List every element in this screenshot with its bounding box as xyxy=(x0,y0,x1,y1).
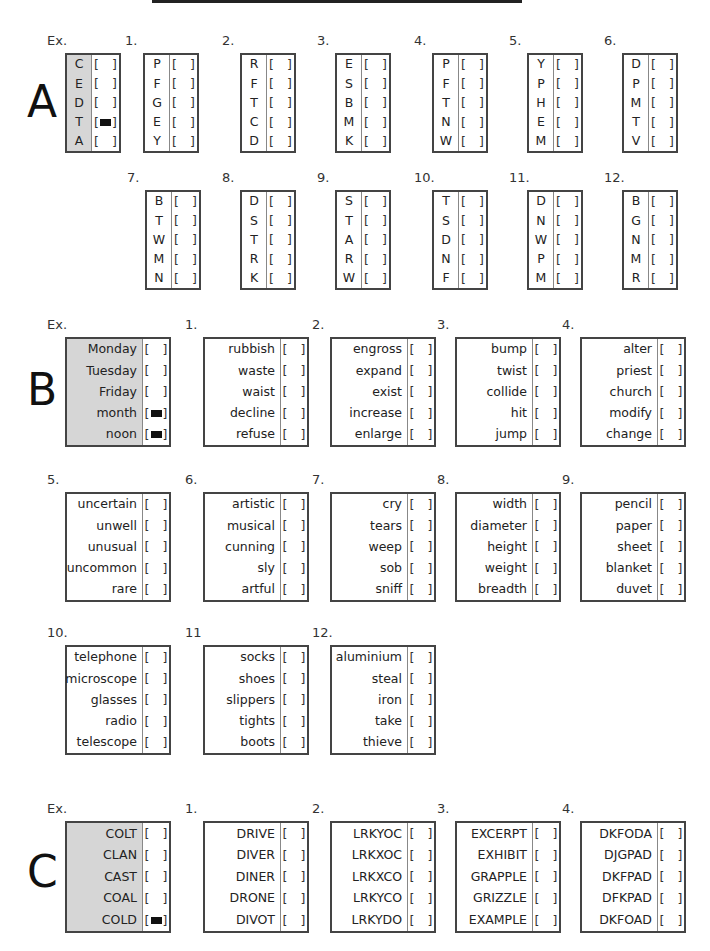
answer-checkbox[interactable]: [] xyxy=(461,76,484,91)
answer-checkbox[interactable]: [] xyxy=(269,271,292,286)
answer-checkbox[interactable]: [] xyxy=(535,342,558,357)
answer-checkbox[interactable]: [] xyxy=(461,57,484,72)
answer-checkbox[interactable]: [] xyxy=(660,363,683,378)
answer-checkbox[interactable]: [] xyxy=(535,848,558,863)
answer-checkbox[interactable]: [] xyxy=(174,271,197,286)
answer-checkbox[interactable]: [] xyxy=(145,561,168,576)
answer-checkbox[interactable]: [] xyxy=(283,539,306,554)
answer-checkbox[interactable]: [] xyxy=(651,271,674,286)
answer-checkbox[interactable]: [] xyxy=(364,271,387,286)
answer-checkbox[interactable]: [] xyxy=(172,57,195,72)
answer-checkbox[interactable]: [] xyxy=(535,913,558,928)
answer-checkbox-marked[interactable]: [] xyxy=(145,913,168,928)
answer-checkbox[interactable]: [] xyxy=(283,497,306,512)
answer-checkbox[interactable]: [] xyxy=(145,384,168,399)
answer-checkbox-marked[interactable]: [] xyxy=(145,406,168,421)
answer-checkbox[interactable]: [] xyxy=(535,826,558,841)
answer-checkbox[interactable]: [] xyxy=(174,194,197,209)
answer-checkbox[interactable]: [] xyxy=(145,735,168,750)
answer-checkbox[interactable]: [] xyxy=(651,115,674,130)
answer-checkbox[interactable]: [] xyxy=(364,115,387,130)
answer-checkbox[interactable]: [] xyxy=(410,913,433,928)
answer-checkbox[interactable]: [] xyxy=(283,363,306,378)
answer-checkbox[interactable]: [] xyxy=(145,869,168,884)
answer-checkbox[interactable]: [] xyxy=(283,869,306,884)
answer-checkbox[interactable]: [] xyxy=(283,826,306,841)
answer-checkbox[interactable]: [] xyxy=(410,406,433,421)
answer-checkbox[interactable]: [] xyxy=(535,363,558,378)
answer-checkbox[interactable]: [] xyxy=(556,271,579,286)
answer-checkbox[interactable]: [] xyxy=(172,76,195,91)
answer-checkbox[interactable]: [] xyxy=(535,869,558,884)
answer-checkbox[interactable]: [] xyxy=(283,582,306,597)
answer-checkbox[interactable]: [] xyxy=(651,95,674,110)
answer-checkbox[interactable]: [] xyxy=(535,384,558,399)
answer-checkbox[interactable]: [] xyxy=(535,561,558,576)
answer-checkbox[interactable]: [] xyxy=(283,671,306,686)
answer-checkbox[interactable]: [] xyxy=(410,561,433,576)
answer-checkbox[interactable]: [] xyxy=(556,134,579,149)
answer-checkbox[interactable]: [] xyxy=(174,232,197,247)
answer-checkbox[interactable]: [] xyxy=(410,582,433,597)
answer-checkbox[interactable]: [] xyxy=(556,57,579,72)
answer-checkbox[interactable]: [] xyxy=(410,497,433,512)
answer-checkbox[interactable]: [] xyxy=(660,913,683,928)
answer-checkbox[interactable]: [] xyxy=(145,714,168,729)
answer-checkbox[interactable]: [] xyxy=(556,194,579,209)
answer-checkbox[interactable]: [] xyxy=(283,735,306,750)
answer-checkbox[interactable]: [] xyxy=(145,826,168,841)
answer-checkbox[interactable]: [] xyxy=(556,95,579,110)
answer-checkbox[interactable]: [] xyxy=(535,582,558,597)
answer-checkbox[interactable]: [] xyxy=(364,57,387,72)
answer-checkbox[interactable]: [] xyxy=(145,692,168,707)
answer-checkbox[interactable]: [] xyxy=(283,427,306,442)
answer-checkbox[interactable]: [] xyxy=(269,252,292,267)
answer-checkbox[interactable]: [] xyxy=(651,134,674,149)
answer-checkbox[interactable]: [] xyxy=(410,869,433,884)
answer-checkbox[interactable]: [] xyxy=(283,342,306,357)
answer-checkbox[interactable]: [] xyxy=(283,913,306,928)
answer-checkbox[interactable]: [] xyxy=(535,891,558,906)
answer-checkbox[interactable]: [] xyxy=(461,213,484,228)
answer-checkbox[interactable]: [] xyxy=(535,427,558,442)
answer-checkbox[interactable]: [] xyxy=(410,735,433,750)
answer-checkbox[interactable]: [] xyxy=(410,363,433,378)
answer-checkbox[interactable]: [] xyxy=(283,714,306,729)
answer-checkbox[interactable]: [] xyxy=(410,671,433,686)
answer-checkbox[interactable]: [] xyxy=(410,891,433,906)
answer-checkbox[interactable]: [] xyxy=(410,650,433,665)
answer-checkbox[interactable]: [] xyxy=(283,518,306,533)
answer-checkbox[interactable]: [] xyxy=(660,497,683,512)
answer-checkbox[interactable]: [] xyxy=(535,518,558,533)
answer-checkbox[interactable]: [] xyxy=(660,561,683,576)
answer-checkbox[interactable]: [] xyxy=(145,497,168,512)
answer-checkbox[interactable]: [] xyxy=(174,213,197,228)
answer-checkbox[interactable]: [] xyxy=(461,271,484,286)
answer-checkbox[interactable]: [] xyxy=(94,57,117,72)
answer-checkbox[interactable]: [] xyxy=(364,95,387,110)
answer-checkbox[interactable]: [] xyxy=(364,194,387,209)
answer-checkbox[interactable]: [] xyxy=(269,95,292,110)
answer-checkbox[interactable]: [] xyxy=(269,115,292,130)
answer-checkbox[interactable]: [] xyxy=(410,384,433,399)
answer-checkbox-marked[interactable]: [] xyxy=(94,115,117,130)
answer-checkbox[interactable]: [] xyxy=(172,95,195,110)
answer-checkbox[interactable]: [] xyxy=(556,213,579,228)
answer-checkbox[interactable]: [] xyxy=(660,848,683,863)
answer-checkbox[interactable]: [] xyxy=(461,252,484,267)
answer-checkbox[interactable]: [] xyxy=(410,826,433,841)
answer-checkbox[interactable]: [] xyxy=(145,539,168,554)
answer-checkbox[interactable]: [] xyxy=(651,57,674,72)
answer-checkbox[interactable]: [] xyxy=(660,539,683,554)
answer-checkbox[interactable]: [] xyxy=(556,232,579,247)
answer-checkbox[interactable]: [] xyxy=(410,692,433,707)
answer-checkbox[interactable]: [] xyxy=(172,115,195,130)
answer-checkbox[interactable]: [] xyxy=(283,406,306,421)
answer-checkbox[interactable]: [] xyxy=(172,134,195,149)
answer-checkbox[interactable]: [] xyxy=(556,115,579,130)
answer-checkbox[interactable]: [] xyxy=(269,232,292,247)
answer-checkbox[interactable]: [] xyxy=(269,76,292,91)
answer-checkbox[interactable]: [] xyxy=(145,342,168,357)
answer-checkbox[interactable]: [] xyxy=(283,891,306,906)
answer-checkbox[interactable]: [] xyxy=(145,671,168,686)
